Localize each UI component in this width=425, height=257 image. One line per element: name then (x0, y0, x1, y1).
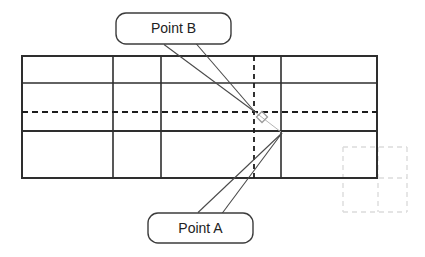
callout-b-tail-line (164, 45, 255, 113)
callout-a: Point A (148, 213, 253, 243)
callout-a-tail-line (198, 133, 282, 213)
cad-callout-diagram: Point B Point A (0, 0, 425, 257)
callout-a-tail-line (222, 133, 282, 214)
diagram-canvas: Point B Point A (0, 0, 425, 257)
main-grid (22, 56, 377, 178)
callout-b: Point B (116, 13, 231, 44)
ghost-grid (343, 147, 407, 212)
callout-b-label: Point B (151, 20, 196, 36)
grid-outline (22, 56, 377, 178)
point-marker-group (255, 112, 281, 133)
callout-a-label: Point A (178, 220, 223, 236)
callout-tails (164, 44, 282, 214)
dashed-axes (22, 56, 377, 178)
callout-b-tail-line (196, 44, 255, 113)
